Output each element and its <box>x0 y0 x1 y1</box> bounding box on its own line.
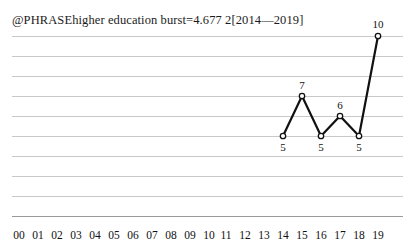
x-axis-tick-labels: 0001020304050607080910111213141516171819 <box>0 0 415 252</box>
chart-screenshot: @PHRASEhigher education burst=4.677 2[20… <box>0 0 415 252</box>
x-tick-label-19: 19 <box>366 229 390 241</box>
